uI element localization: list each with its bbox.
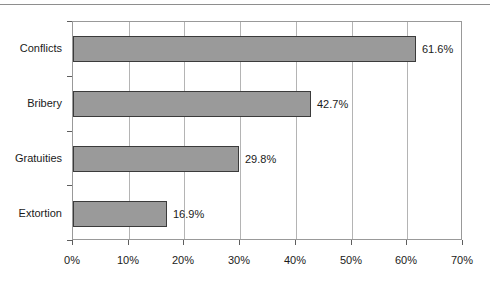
y-axis-tick — [67, 185, 72, 186]
bar[interactable] — [73, 91, 311, 117]
y-axis-tick — [67, 21, 72, 22]
x-axis-tick-label: 70% — [451, 255, 473, 266]
bar-band: 61.6% — [73, 22, 461, 77]
x-axis-tick-label: 0% — [64, 255, 80, 266]
top-divider-rule — [0, 4, 490, 5]
x-axis-tick-label: 50% — [340, 255, 362, 266]
x-axis-tick-label: 10% — [117, 255, 139, 266]
bar-chart-figure: 61.6%42.7%29.8%16.9% ConflictsBriberyGra… — [0, 0, 490, 287]
x-axis-tick-label: 20% — [172, 255, 194, 266]
bar[interactable] — [73, 146, 239, 172]
category-label-gratuities: Gratuities — [15, 152, 62, 163]
x-axis-tick — [295, 240, 296, 245]
category-label-bribery: Bribery — [27, 98, 62, 109]
bar-value-label: 61.6% — [422, 44, 453, 55]
x-axis-tick — [128, 240, 129, 245]
x-axis-tick — [406, 240, 407, 245]
x-axis-tick — [462, 240, 463, 245]
bar-band: 16.9% — [73, 186, 461, 241]
bar-value-label: 29.8% — [245, 153, 276, 164]
category-label-conflicts: Conflicts — [20, 43, 62, 54]
category-label-extortion: Extortion — [19, 207, 62, 218]
bar-band: 29.8% — [73, 132, 461, 187]
x-axis-tick — [72, 240, 73, 245]
bar-band: 42.7% — [73, 77, 461, 132]
x-axis-tick — [183, 240, 184, 245]
y-axis-tick — [67, 76, 72, 77]
x-axis-tick-label: 40% — [284, 255, 306, 266]
x-axis-tick — [351, 240, 352, 245]
bar[interactable] — [73, 201, 167, 227]
bar[interactable] — [73, 36, 416, 62]
x-axis-tick — [239, 240, 240, 245]
x-axis-tick-label: 60% — [395, 255, 417, 266]
x-axis-tick-label: 30% — [228, 255, 250, 266]
bar-value-label: 16.9% — [173, 208, 204, 219]
plot-area: 61.6%42.7%29.8%16.9% — [72, 21, 462, 240]
y-axis-tick — [67, 131, 72, 132]
bar-value-label: 42.7% — [317, 99, 348, 110]
